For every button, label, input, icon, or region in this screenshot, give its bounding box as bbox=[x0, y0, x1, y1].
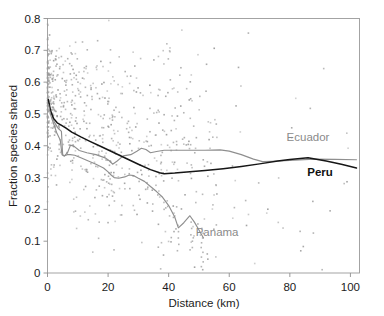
scatter-point bbox=[190, 173, 192, 175]
scatter-point bbox=[71, 79, 73, 81]
scatter-point bbox=[234, 207, 236, 209]
y-tick-label: 0.8 bbox=[25, 13, 41, 25]
scatter-point bbox=[106, 90, 108, 92]
scatter-point bbox=[277, 222, 279, 224]
scatter-point bbox=[190, 98, 192, 100]
scatter-point bbox=[114, 221, 116, 223]
scatter-point bbox=[139, 198, 141, 200]
scatter-point bbox=[49, 66, 51, 68]
scatter-point bbox=[49, 34, 51, 36]
scatter-point bbox=[162, 129, 164, 131]
y-tick-label: 0.3 bbox=[25, 172, 41, 184]
scatter-point bbox=[108, 97, 110, 99]
scatter-point bbox=[197, 223, 199, 225]
scatter-point bbox=[130, 137, 132, 139]
scatter-point bbox=[142, 95, 144, 97]
scatter-point bbox=[174, 162, 176, 164]
scatter-point bbox=[75, 108, 77, 110]
scatter-point bbox=[56, 63, 58, 65]
scatter-point bbox=[86, 105, 88, 107]
scatter-point bbox=[106, 181, 108, 183]
scatter-point bbox=[76, 228, 78, 230]
scatter-point bbox=[193, 125, 195, 127]
scatter-point bbox=[68, 141, 70, 143]
scatter-point bbox=[59, 66, 61, 68]
scatter-point bbox=[72, 84, 74, 86]
scatter-point bbox=[191, 167, 193, 169]
scatter-point bbox=[206, 253, 208, 255]
scatter-point bbox=[282, 227, 284, 229]
scatter-point bbox=[170, 130, 172, 132]
scatter-point bbox=[62, 64, 64, 66]
scatter-point bbox=[55, 175, 57, 177]
scatter-point bbox=[60, 106, 62, 108]
scatter-point bbox=[52, 78, 54, 80]
scatter-point bbox=[47, 136, 49, 138]
series-label-ecuador: Ecuador bbox=[287, 131, 330, 143]
scatter-point bbox=[161, 144, 163, 146]
scatter-point bbox=[69, 182, 71, 184]
scatter-point bbox=[145, 189, 147, 191]
scatter-point bbox=[201, 256, 203, 258]
scatter-point bbox=[47, 60, 49, 62]
y-tick-label: 0.2 bbox=[25, 203, 41, 215]
scatter-point bbox=[113, 80, 115, 82]
scatter-point bbox=[49, 135, 51, 137]
scatter-point bbox=[213, 173, 215, 175]
scatter-point bbox=[172, 205, 174, 207]
scatter-point bbox=[248, 32, 250, 34]
scatter-point bbox=[77, 81, 79, 83]
scatter-point bbox=[95, 139, 97, 141]
scatter-point bbox=[70, 113, 72, 115]
scatter-point bbox=[84, 102, 86, 104]
scatter-point bbox=[238, 67, 240, 69]
scatter-point bbox=[88, 136, 90, 138]
x-tick-label: 60 bbox=[223, 281, 236, 293]
scatter-point bbox=[49, 51, 51, 53]
scatter-point bbox=[102, 195, 104, 197]
scatter-point bbox=[91, 99, 93, 101]
scatter-point bbox=[73, 77, 75, 79]
scatter-point bbox=[119, 188, 121, 190]
scatter-point bbox=[83, 121, 85, 123]
y-tick-label: 0.4 bbox=[25, 140, 42, 152]
scatter-point bbox=[133, 107, 135, 109]
scatter-point bbox=[61, 56, 63, 58]
scatter-point bbox=[80, 96, 82, 98]
y-tick-label: 0 bbox=[34, 267, 40, 279]
scatter-point bbox=[52, 80, 54, 82]
scatter-point bbox=[94, 197, 96, 199]
scatter-point bbox=[157, 95, 159, 97]
scatter-point bbox=[347, 147, 349, 149]
scatter-point bbox=[74, 103, 76, 105]
scatter-point bbox=[87, 219, 89, 221]
scatter-point bbox=[108, 205, 110, 207]
scatter-point bbox=[173, 231, 175, 233]
scatter-point bbox=[73, 127, 75, 129]
scatter-point bbox=[71, 114, 73, 116]
scatter-point bbox=[148, 175, 150, 177]
scatter-point bbox=[169, 215, 171, 217]
scatter-point bbox=[204, 165, 206, 167]
scatter-point bbox=[165, 96, 167, 98]
scatter-point bbox=[69, 45, 71, 47]
scatter-point bbox=[126, 128, 128, 130]
scatter-point bbox=[178, 244, 180, 246]
scatter-point bbox=[159, 196, 161, 198]
scatter-point bbox=[129, 127, 131, 129]
scatter-point bbox=[323, 68, 325, 70]
scatter-point bbox=[107, 126, 109, 128]
scatter-point bbox=[51, 109, 53, 111]
scatter-point bbox=[190, 74, 192, 76]
scatter-point bbox=[194, 152, 196, 154]
scatter-point bbox=[90, 87, 92, 89]
scatter-point bbox=[89, 135, 91, 137]
scatter-point bbox=[47, 178, 49, 180]
scatter-point bbox=[75, 210, 77, 212]
scatter-point bbox=[107, 222, 109, 224]
scatter-point bbox=[216, 193, 218, 195]
scatter-point bbox=[166, 43, 168, 45]
scatter-point bbox=[71, 169, 73, 171]
scatter-point bbox=[137, 172, 139, 174]
scatter-point bbox=[153, 59, 155, 61]
